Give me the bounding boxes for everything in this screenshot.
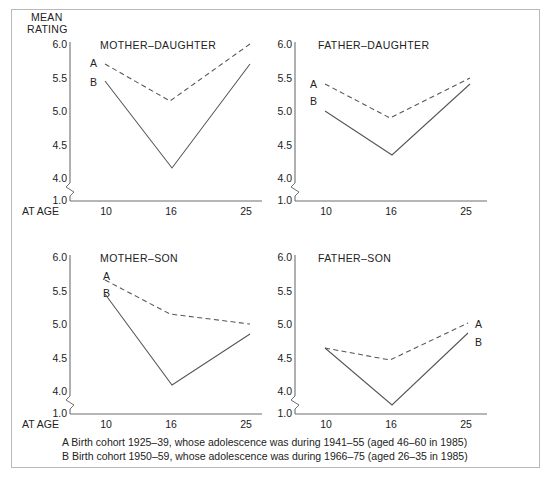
figure-root: MEAN RATING MOTHER–DAUGHTER 6.0 5.5 5.0 … [0, 0, 551, 484]
footnote-cohort-a: A Birth cohort 1925–39, whose adolescenc… [62, 436, 467, 449]
panel-father-son-plot [0, 0, 551, 484]
footnote-cohort-b: B Birth cohort 1950–59, whose adolescenc… [62, 450, 468, 463]
